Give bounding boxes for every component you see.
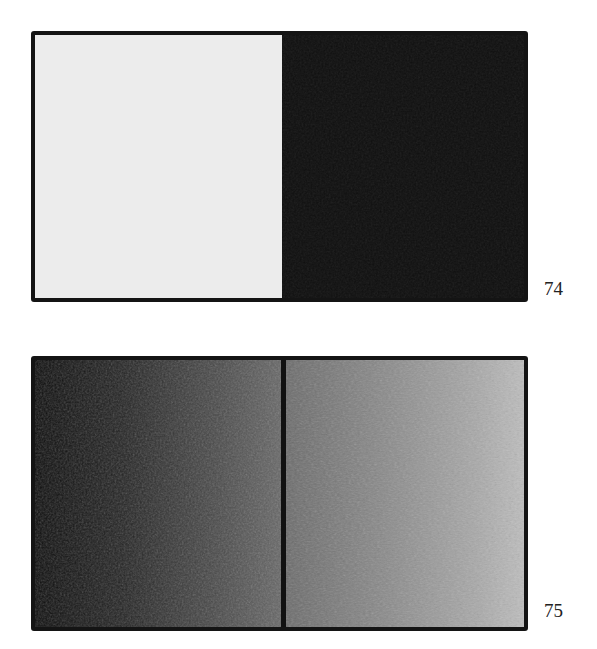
figure-75 [31, 356, 528, 631]
light-panel [35, 35, 282, 298]
dark-panel [282, 35, 524, 298]
figure-number-75: 75 [544, 600, 563, 622]
mid-gradient-panel [286, 360, 524, 627]
dark-gradient-panel [35, 360, 283, 627]
figure-74 [31, 31, 528, 302]
figure-number-74: 74 [544, 278, 563, 300]
